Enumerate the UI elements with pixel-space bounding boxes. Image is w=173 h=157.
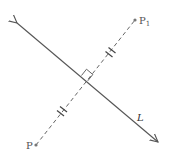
point-p1 (133, 18, 136, 21)
equal-ticks-lower (57, 107, 67, 117)
segment-p-p1 (36, 20, 135, 145)
line-l (17, 23, 158, 142)
label-p: P (26, 140, 33, 151)
label-p1: P1 (139, 15, 150, 28)
label-l: L (136, 112, 144, 123)
reflection-diagram: P P1 L (0, 0, 173, 157)
point-p (34, 143, 37, 146)
